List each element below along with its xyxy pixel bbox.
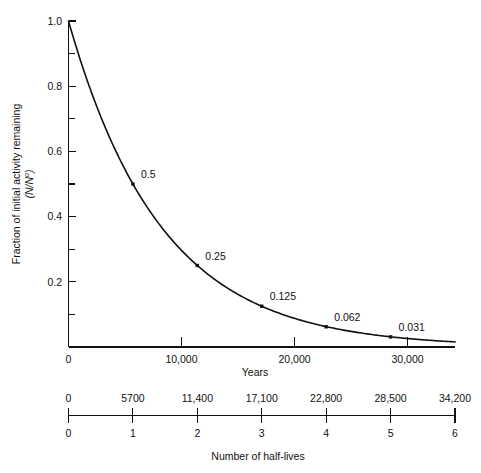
secondary-axis-year-label: 0 [66,392,72,404]
y-axis-subtitle-open: (N/N [23,177,35,199]
secondary-axis-year-label: 22,800 [310,392,342,404]
secondary-axis-year-label: 11,400 [182,392,213,404]
x-tick-label: 20,000 [278,353,310,365]
secondary-axis-top-labels: 0 5700 11,400 17,100 22,800 28,500 34,20… [66,392,472,404]
y-axis-title: Fraction of initial activity remaining [10,104,22,265]
y-axis-subtitle-group: (N/No) [23,170,35,199]
secondary-axis-bottom-labels: 0 1 2 3 4 5 6 [66,427,459,439]
y-axis [69,21,77,347]
x-tick-label: 30,000 [391,353,423,365]
y-tick-label: 0.4 [47,210,62,222]
secondary-axis-year-label: 17,100 [246,392,278,404]
secondary-axis-year-label: 5700 [121,392,145,404]
secondary-axis-halflife-label: 2 [194,427,200,439]
data-point-marker [260,305,263,308]
x-tick-label: 0 [66,353,72,365]
data-point-label: 0.062 [334,311,360,323]
x-axis-title: Years [242,366,268,378]
secondary-axis-halflife-label: 0 [66,427,72,439]
data-point-label: 0.25 [205,250,226,262]
y-tick-label: 0.8 [47,80,62,92]
x-tick-label: 10,000 [165,353,197,365]
secondary-axis-halflife-label: 5 [388,427,394,439]
secondary-axis [69,408,456,423]
secondary-axis-year-label: 34,200 [439,392,471,404]
secondary-axis-halflife-label: 4 [323,427,329,439]
y-tick-labels: 1.0 0.8 0.6 0.4 0.2 [47,15,62,288]
svg-text:(N/No): (N/No) [23,170,35,199]
y-tick-label: 0.6 [47,145,62,157]
y-tick-label: 0.2 [47,276,62,288]
data-point-labels: 0.5 0.25 0.125 0.062 0.031 [141,168,425,333]
secondary-axis-halflife-label: 1 [130,427,136,439]
data-point-marker [389,335,392,338]
data-point-marker [131,182,134,185]
data-point-marker [196,264,199,267]
data-point-marker [324,325,327,328]
decay-chart-figure: 1.0 0.8 0.6 0.4 0.2 0 10,000 20,000 30,0… [0,0,481,473]
secondary-axis-title: Number of half-lives [211,450,304,462]
y-axis-title-group: Fraction of initial activity remaining (… [10,104,35,265]
x-tick-labels: 0 10,000 20,000 30,000 [66,353,424,365]
secondary-axis-year-label: 28,500 [375,392,407,404]
decay-curve-render [69,21,456,342]
data-point-label: 0.5 [141,168,156,180]
decay-curve-group [69,21,456,342]
secondary-axis-halflife-label: 6 [452,427,458,439]
data-point-label: 0.125 [270,290,296,302]
secondary-axis-halflife-label: 3 [259,427,265,439]
chart-canvas: 1.0 0.8 0.6 0.4 0.2 0 10,000 20,000 30,0… [0,0,481,473]
y-tick-label: 1.0 [47,15,62,27]
x-axis [69,337,456,347]
data-point-label: 0.031 [399,321,425,333]
